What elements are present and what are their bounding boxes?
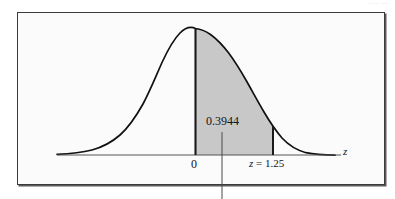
shaded-area-region bbox=[196, 29, 274, 156]
x-tick-label-z-1-25: z = 1.25 bbox=[249, 157, 284, 169]
z-value-text: = 1.25 bbox=[253, 157, 284, 169]
normal-curve-canvas bbox=[0, 0, 395, 199]
x-axis-label: z bbox=[343, 145, 347, 157]
area-value-label: 0.3944 bbox=[206, 114, 239, 129]
normal-curve-figure: ––– –– 0.3944 0 z = 1.25 z bbox=[0, 0, 395, 199]
x-tick-label-zero: 0 bbox=[191, 157, 197, 172]
